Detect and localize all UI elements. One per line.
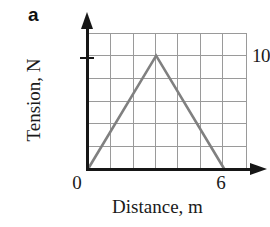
- y-axis-tick-label: 10: [194, 46, 270, 65]
- x-axis-title: Distance, m: [60, 197, 255, 216]
- panel-letter: a: [28, 5, 39, 24]
- y-axis-title: Tension, N: [24, 58, 43, 141]
- gridline-horizontal: [88, 146, 247, 147]
- gridline-vertical: [110, 33, 111, 169]
- y-axis: [86, 27, 89, 171]
- x-axis-tick-label-origin: 0: [67, 173, 87, 192]
- x-axis: [86, 168, 253, 171]
- gridline-horizontal: [88, 123, 247, 124]
- gridline-vertical: [177, 33, 178, 169]
- gridline-vertical: [155, 33, 156, 169]
- gridline-horizontal: [88, 33, 247, 34]
- x-axis-arrow-icon: [250, 163, 267, 175]
- gridline-horizontal: [88, 78, 247, 79]
- y-axis-arrow-icon: [81, 12, 93, 29]
- y-axis-tick-mark: [80, 57, 94, 59]
- x-axis-tick-label-max: 6: [211, 173, 231, 192]
- gridline-horizontal: [88, 101, 247, 102]
- gridline-vertical: [133, 33, 134, 169]
- physics-graph-figure: a 10 0 6 Tension, N Distance, m: [0, 0, 270, 227]
